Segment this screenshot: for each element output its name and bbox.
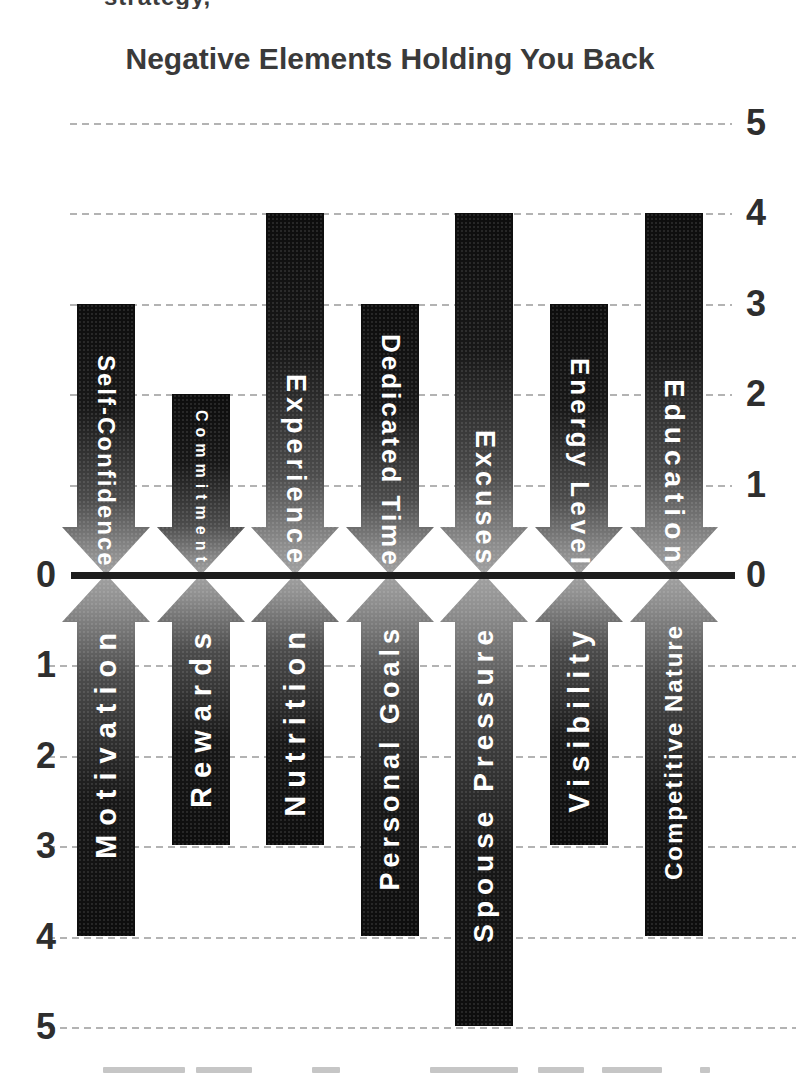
arrow-label-energy-level: Energy Level	[564, 358, 595, 568]
cropped-text-bottom-fragment	[602, 1067, 662, 1073]
cropped-text-bottom-fragment	[312, 1067, 340, 1073]
arrow-down-energy-level: Energy Level	[535, 304, 623, 576]
arrow-label-nutrition: Nutrition	[279, 624, 312, 817]
arrow-up-rewards: Rewards	[157, 574, 245, 846]
gridline-upper-5	[70, 123, 732, 125]
arrow-label-spouse-pressure: Spouse Pressure	[468, 624, 500, 943]
arrow-up-visibility: Visibility	[535, 574, 623, 846]
arrow-label-competitive-nature: Competitive Nature	[660, 624, 688, 880]
gridline-lower-5	[48, 1027, 796, 1029]
axis-tick-label-right-3: 3	[746, 285, 786, 323]
cropped-text-top: strategy,	[104, 0, 274, 9]
axis-tick-label-right-0: 0	[746, 556, 786, 594]
axis-tick-label-left-5: 5	[26, 1008, 66, 1046]
chart-title: Negative Elements Holding You Back	[70, 42, 710, 76]
arrow-label-motivation: Motivation	[90, 624, 123, 859]
arrow-label-dedicated-time: Dedicated Time	[375, 334, 406, 568]
arrow-up-spouse-pressure: Spouse Pressure	[440, 574, 528, 1027]
axis-tick-label-right-5: 5	[746, 104, 786, 142]
axis-tick-label-left-1: 1	[26, 646, 66, 684]
cropped-text-bottom-fragment	[103, 1067, 185, 1073]
arrow-label-rewards: Rewards	[185, 624, 218, 808]
cropped-text-bottom-fragment	[538, 1067, 584, 1073]
arrow-up-nutrition: Nutrition	[251, 574, 339, 846]
zero-baseline	[71, 572, 735, 579]
axis-tick-label-right-2: 2	[746, 375, 786, 413]
cropped-text-bottom-fragment	[700, 1067, 710, 1073]
gridline-lower-4	[48, 937, 796, 939]
arrow-label-visibility: Visibility	[563, 624, 596, 813]
axis-tick-label-left-2: 2	[26, 737, 66, 775]
arrow-label-education: Education	[658, 379, 690, 568]
arrow-label-self-confidence: Self-Confidence	[92, 355, 120, 568]
axis-tick-label-left-4: 4	[26, 918, 66, 956]
cropped-text-bottom-fragment	[196, 1067, 252, 1073]
arrow-label-personal-goals: Personal Goals	[375, 624, 406, 891]
arrow-down-dedicated-time: Dedicated Time	[346, 304, 434, 576]
cropped-text-top-value: strategy,	[104, 0, 211, 9]
cropped-text-bottom-fragment	[430, 1067, 518, 1073]
arrow-down-self-confidence: Self-Confidence	[62, 304, 150, 576]
arrow-label-excuses: Excuses	[469, 430, 500, 568]
axis-tick-label-left-0: 0	[26, 556, 66, 594]
arrow-label-commitment: Commitment	[192, 410, 210, 568]
axis-tick-label-left-3: 3	[26, 827, 66, 865]
book-page-scan: { "page": { "cropped_text_top": "strateg…	[0, 0, 801, 1073]
gridline-upper-4	[70, 213, 732, 215]
axis-tick-label-right-4: 4	[746, 194, 786, 232]
axis-tick-label-right-1: 1	[746, 466, 786, 504]
arrow-label-experience: Experience	[280, 374, 311, 568]
